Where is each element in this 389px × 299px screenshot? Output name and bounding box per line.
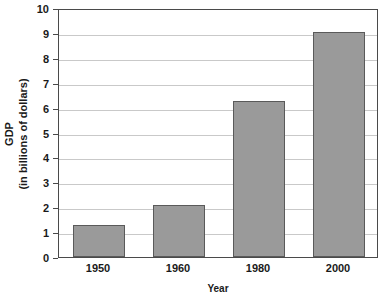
x-axis-title: Year: [58, 283, 378, 294]
y-tick-label: 7: [43, 78, 49, 89]
chart-figure: GDP (in billions of dollars) 01234567891…: [0, 0, 389, 299]
y-tick-label: 3: [43, 178, 49, 189]
plot-area: [58, 9, 378, 258]
y-tick-label: 10: [37, 4, 49, 15]
bar-1980: [233, 101, 285, 257]
y-tick-label: 8: [43, 53, 49, 64]
x-tick-label: 1950: [86, 262, 110, 274]
y-tick-label: 1: [43, 228, 49, 239]
y-tick-mark: [53, 258, 58, 259]
y-tick-label: 2: [43, 203, 49, 214]
bar-1960: [153, 205, 205, 257]
y-tick-label: 4: [43, 153, 49, 164]
chart-title: [0, 0, 389, 2]
y-tick-label: 6: [43, 103, 49, 114]
bar-2000: [313, 32, 365, 257]
x-tick-label: 1980: [246, 262, 270, 274]
bars-layer: [59, 10, 377, 257]
y-tick-label: 9: [43, 28, 49, 39]
x-axis-ticks: 1950196019802000: [58, 260, 378, 278]
x-tick-label: 2000: [326, 262, 350, 274]
y-tick-label: 0: [43, 253, 49, 264]
y-axis-ticks: 012345678910: [0, 9, 58, 258]
bar-1950: [73, 225, 125, 257]
y-tick-label: 5: [43, 128, 49, 139]
x-tick-label: 1960: [166, 262, 190, 274]
